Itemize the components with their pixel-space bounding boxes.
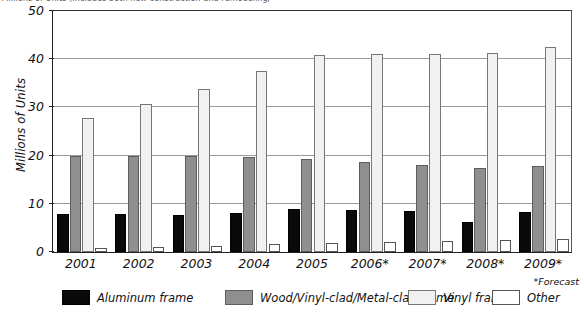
bar-vinyl-2002: [140, 104, 152, 252]
bar-vinyl-2007: [429, 54, 441, 252]
x-tick-label: 2002: [110, 256, 168, 271]
legend-item-aluminum[interactable]: Aluminum frame: [62, 290, 193, 305]
bar-other-2001: [95, 248, 107, 252]
y-tick-mark: [49, 58, 54, 59]
bar-other-2005: [326, 243, 338, 252]
bar-aluminum-2002: [115, 214, 127, 252]
bar-aluminum-2003: [173, 215, 185, 252]
bar-other-2003: [211, 246, 223, 252]
bar-other-2006: [384, 242, 396, 252]
legend-label: Aluminum frame: [97, 291, 193, 305]
y-tick-mark: [49, 10, 54, 11]
bar-vinyl-2006: [371, 54, 383, 252]
x-tick-label: 2006*: [341, 256, 399, 271]
bar-aluminum-2006: [346, 210, 358, 252]
bar-wood-2004: [243, 157, 255, 252]
bar-other-2008: [500, 240, 512, 252]
x-tick-label: 2009*: [514, 256, 572, 271]
y-tick-mark: [49, 203, 54, 204]
y-axis-title: Millions of Units: [14, 50, 28, 200]
bar-aluminum-2008: [462, 222, 474, 252]
bar-wood-2009: [532, 166, 544, 252]
bar-wood-2003: [185, 156, 197, 252]
bar-other-2007: [442, 241, 454, 252]
bar-aluminum-2004: [230, 213, 242, 252]
bar-wood-2005: [301, 159, 313, 252]
legend-swatch-other-icon: [492, 290, 520, 305]
plot-area: [52, 10, 572, 253]
x-tick-label: 2001: [52, 256, 110, 271]
y-tick-mark: [49, 106, 54, 107]
x-tick-label: 2007*: [399, 256, 457, 271]
bar-aluminum-2001: [57, 214, 69, 252]
legend-label: Other: [527, 291, 560, 305]
bar-vinyl-2004: [256, 71, 268, 252]
bar-other-2002: [153, 247, 165, 252]
bar-vinyl-2008: [487, 53, 499, 252]
bar-chart-figure: Millions of Units (includes both new con…: [0, 0, 584, 312]
bar-wood-2002: [128, 156, 140, 252]
bar-vinyl-2009: [545, 47, 557, 252]
x-tick-label: 2004: [225, 256, 283, 271]
legend-swatch-aluminum-icon: [62, 290, 90, 305]
bar-aluminum-2007: [404, 211, 416, 252]
legend-swatch-vinyl-icon: [408, 290, 436, 305]
bar-wood-2001: [70, 156, 82, 252]
y-tick-label: 50: [14, 3, 44, 18]
legend-item-other[interactable]: Other: [492, 290, 560, 305]
source-caption: Millions of Units (includes both new con…: [2, 0, 562, 4]
x-tick-label: 2003: [168, 256, 226, 271]
bar-aluminum-2009: [519, 212, 531, 252]
x-tick-label: 2005: [283, 256, 341, 271]
bar-vinyl-2003: [198, 89, 210, 252]
bar-wood-2006: [359, 162, 371, 252]
y-tick-mark: [49, 251, 54, 252]
bar-other-2004: [269, 244, 281, 252]
bar-wood-2007: [416, 165, 428, 252]
bar-other-2009: [557, 239, 569, 252]
y-tick-label: 0: [14, 244, 44, 259]
y-tick-mark: [49, 155, 54, 156]
bar-wood-2008: [474, 168, 486, 252]
legend-swatch-wood-icon: [225, 290, 253, 305]
bar-vinyl-2005: [314, 55, 326, 252]
x-tick-label: 2008*: [456, 256, 514, 271]
chart-legend: Aluminum frameWood/Vinyl-clad/Metal-clad…: [0, 286, 584, 310]
bar-vinyl-2001: [82, 118, 94, 252]
bar-aluminum-2005: [288, 209, 300, 252]
